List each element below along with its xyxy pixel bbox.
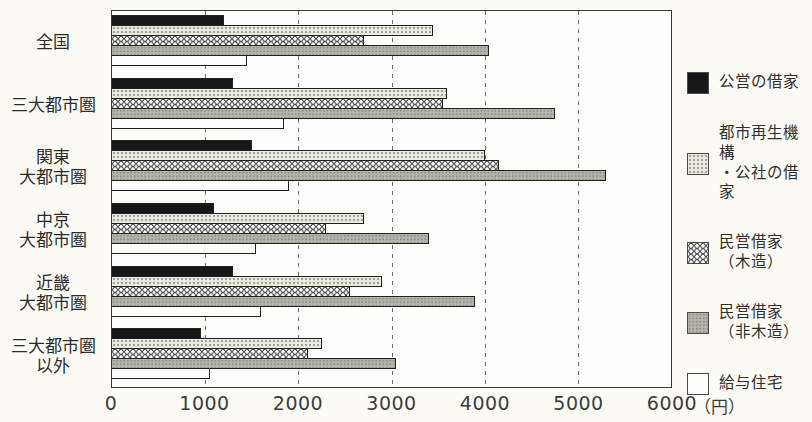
legend-item: 民営借家 （木造） [687,233,812,273]
x-tick-label: 5000 [553,392,603,414]
bar-group [112,74,671,137]
x-tick-label: 0 [105,392,118,414]
legend-item: 公営の借家 [687,72,812,94]
bar [112,306,261,317]
axis-unit-label: （円） [694,393,745,418]
legend-item: 民営借家 （非木造） [687,303,812,343]
bar-group [112,136,671,199]
bar-chart-figure: 全国三大都市圏関東 大都市圏中京 大都市圏近畿 大都市圏三大都市圏 以外 010… [0,0,812,422]
legend-label: 公営の借家 [719,73,799,93]
legend-swatch [687,373,709,395]
legend-label: 民営借家 （木造） [719,233,783,273]
bar-group [112,11,671,74]
category-label: 三大都市圏 [0,94,106,115]
legend-label: 都市再生機構 ・公社の借家 [719,124,812,203]
legend-swatch [687,72,709,94]
bar [112,368,210,379]
x-tick-label: 2000 [273,392,323,414]
legend-item: 給与住宅 [687,373,812,395]
category-label: 近畿 大都市圏 [0,273,106,314]
legend-swatch [687,153,709,175]
legend: 公営の借家都市再生機構 ・公社の借家民営借家 （木造）民営借家 （非木造）給与住… [687,72,812,395]
category-label: 関東 大都市圏 [0,147,106,188]
bar-group [112,262,671,325]
bar [112,243,256,254]
category-label: 中京 大都市圏 [0,210,106,251]
category-label: 全国 [0,31,106,52]
plot-area [111,10,672,388]
category-label: 三大都市圏 以外 [0,336,106,377]
legend-swatch [687,312,709,334]
bar-group [112,199,671,262]
x-tick-label: 3000 [366,392,416,414]
bar [112,180,289,191]
bar-group [112,324,671,387]
bar [112,118,284,129]
legend-label: 給与住宅 [719,374,783,394]
x-tick-label: 4000 [460,392,510,414]
bar [112,55,247,66]
legend-item: 都市再生機構 ・公社の借家 [687,124,812,203]
legend-swatch [687,242,709,264]
x-tick-label: 6000 [647,392,697,414]
legend-label: 民営借家 （非木造） [719,303,799,343]
x-tick-label: 1000 [179,392,229,414]
